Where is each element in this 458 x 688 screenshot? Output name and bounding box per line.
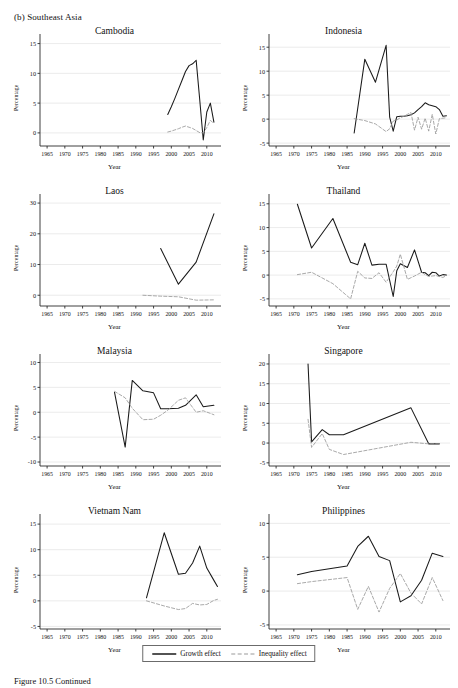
plot-area: 0510151965197019751980198519901995200020…: [0, 24, 229, 184]
panel-singapore: Singapore-505101520196519701975198019851…: [229, 344, 458, 504]
x-tick-label: 1980: [323, 151, 335, 157]
x-tick-label: 1995: [148, 151, 160, 157]
x-tick-label: 2005: [412, 311, 424, 317]
y-tick-label: -5: [31, 623, 36, 630]
panel-philippines: Philippines-5051019651970197519801985199…: [229, 504, 458, 667]
x-tick-label: 1970: [59, 151, 71, 157]
x-tick-label: 1980: [94, 634, 106, 640]
x-tick-label: 1980: [94, 151, 106, 157]
x-tick-label: 1980: [323, 634, 335, 640]
panel-group-label: (b) Southeast Asia: [14, 12, 82, 22]
y-axis-label: Percentage: [242, 566, 248, 593]
x-tick-label: 2010: [201, 151, 213, 157]
x-tick-label: 1975: [306, 471, 318, 477]
panel-malaysia: Malaysia-10-5051019651970197519801985199…: [0, 344, 229, 504]
y-tick-label: 0: [262, 439, 265, 446]
series-growth-effect: [161, 214, 214, 284]
growth-effect-line-icon: [151, 651, 177, 657]
y-tick-label: 20: [30, 230, 36, 237]
y-tick-label: 10: [259, 68, 265, 75]
x-tick-label: 2000: [165, 634, 177, 640]
x-tick-label: 1995: [148, 634, 160, 640]
x-tick-label: 1995: [377, 471, 389, 477]
panel-grid: Cambodia05101519651970197519801985199019…: [0, 24, 458, 667]
plot-area: -505101520196519701975198019851990199520…: [229, 344, 458, 504]
x-tick-label: 2005: [412, 151, 424, 157]
y-tick-label: 10: [259, 224, 265, 231]
x-tick-label: 1970: [288, 151, 300, 157]
x-tick-label: 1965: [41, 151, 53, 157]
y-tick-label: 5: [262, 420, 265, 427]
y-tick-label: 0: [262, 587, 265, 594]
plot-area: -505101519651970197519801985199019952000…: [229, 24, 458, 184]
x-tick-label: 1965: [41, 471, 53, 477]
y-tick-label: -5: [260, 459, 265, 466]
y-tick-label: 10: [30, 359, 36, 366]
y-tick-label: 0: [33, 129, 36, 136]
series-inequality-effect: [143, 295, 214, 300]
plot-area: -505101965197019751980198519901995200020…: [229, 504, 458, 667]
x-tick-label: 1970: [288, 471, 300, 477]
x-axis-label: Year: [229, 163, 458, 171]
y-axis-label: Percentage: [13, 84, 19, 111]
y-tick-label: 0: [33, 409, 36, 416]
y-tick-label: 10: [259, 400, 265, 407]
panel-vietnam-nam: Vietnam Nam-5051015196519701975198019851…: [0, 504, 229, 667]
x-tick-label: 1965: [270, 471, 282, 477]
y-tick-label: 20: [259, 360, 265, 367]
x-tick-label: 1965: [41, 311, 53, 317]
y-tick-label: -5: [260, 621, 265, 628]
y-tick-label: 5: [262, 248, 265, 255]
inequality-effect-line-icon: [230, 651, 256, 657]
x-tick-label: 1970: [288, 311, 300, 317]
x-tick-label: 1990: [359, 151, 371, 157]
x-tick-label: 1970: [59, 311, 71, 317]
figure-southeast-asia: (b) Southeast Asia Cambodia0510151965197…: [0, 0, 458, 688]
legend-label-growth-effect: Growth effect: [180, 649, 221, 658]
legend-item-inequality-effect: Inequality effect: [230, 649, 307, 658]
x-tick-label: 1970: [59, 471, 71, 477]
y-axis-label: Percentage: [242, 404, 248, 431]
x-tick-label: 2005: [412, 471, 424, 477]
legend-item-growth-effect: Growth effect: [151, 649, 221, 658]
y-tick-label: 5: [33, 100, 36, 107]
y-axis-label: Percentage: [242, 84, 248, 111]
x-tick-label: 2010: [430, 634, 442, 640]
x-tick-label: 1990: [130, 471, 142, 477]
x-tick-label: 2010: [201, 311, 213, 317]
y-tick-label: 0: [262, 116, 265, 123]
x-tick-label: 1980: [323, 311, 335, 317]
x-tick-label: 1985: [112, 471, 124, 477]
y-tick-label: 0: [33, 292, 36, 299]
x-tick-label: 1965: [41, 634, 53, 640]
x-tick-label: 1990: [130, 634, 142, 640]
x-tick-label: 1990: [130, 311, 142, 317]
y-tick-label: 30: [30, 199, 36, 206]
x-tick-label: 1985: [341, 311, 353, 317]
x-tick-label: 2005: [183, 634, 195, 640]
x-tick-label: 1975: [306, 634, 318, 640]
x-tick-label: 2005: [412, 634, 424, 640]
x-tick-label: 2005: [183, 311, 195, 317]
y-tick-label: 15: [259, 380, 265, 387]
x-tick-label: 1975: [306, 151, 318, 157]
figure-caption: Figure 10.5 Continued: [14, 676, 91, 686]
x-tick-label: 1980: [323, 471, 335, 477]
y-tick-label: 15: [259, 200, 265, 207]
x-tick-label: 2000: [165, 471, 177, 477]
x-tick-label: 2000: [165, 151, 177, 157]
y-tick-label: 10: [30, 546, 36, 553]
legend: Growth effect Inequality effect: [142, 645, 315, 662]
y-tick-label: 5: [33, 384, 36, 391]
x-tick-label: 2010: [201, 634, 213, 640]
plot-area: -505101519651970197519801985199019952000…: [229, 184, 458, 344]
x-axis-label: Year: [0, 323, 229, 331]
x-tick-label: 2000: [394, 311, 406, 317]
panel-indonesia: Indonesia-505101519651970197519801985199…: [229, 24, 458, 184]
x-tick-label: 1995: [377, 634, 389, 640]
x-tick-label: 1985: [112, 151, 124, 157]
x-tick-label: 2000: [394, 634, 406, 640]
x-tick-label: 2010: [430, 151, 442, 157]
y-tick-label: 5: [262, 554, 265, 561]
x-tick-label: 1985: [112, 634, 124, 640]
